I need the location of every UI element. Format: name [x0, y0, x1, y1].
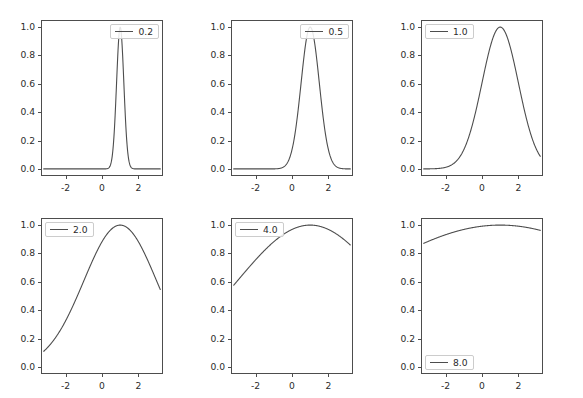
legend-0.2[interactable]: 0.2	[110, 24, 159, 39]
ytick-mark	[418, 225, 421, 226]
ytick-label: 0.4	[389, 108, 415, 117]
data-curve	[234, 27, 351, 169]
xtick-mark	[66, 176, 67, 179]
ytick-label: 0.4	[9, 306, 35, 315]
legend-line-swatch	[430, 31, 448, 32]
subplot-8.0: 0.00.20.40.60.81.0-2028.0	[421, 218, 543, 374]
xtick-mark	[482, 176, 483, 179]
ytick-mark	[38, 225, 41, 226]
xtick-label: 0	[479, 381, 485, 390]
ytick-mark	[418, 84, 421, 85]
curve-group	[421, 218, 543, 374]
xtick-label: 2	[135, 381, 141, 390]
ytick-mark	[228, 225, 231, 226]
figure-canvas: 0.00.20.40.60.81.0-2020.20.00.20.40.60.8…	[0, 0, 583, 398]
xtick-mark	[518, 374, 519, 377]
data-curve	[424, 27, 541, 169]
legend-line-swatch	[305, 31, 323, 32]
xtick-label: 2	[515, 381, 521, 390]
ytick-mark	[418, 367, 421, 368]
ytick-mark	[38, 112, 41, 113]
legend-label: 0.5	[328, 27, 343, 36]
xtick-mark	[328, 176, 329, 179]
ytick-label: 0.0	[199, 362, 225, 371]
ytick-label: 0.2	[9, 136, 35, 145]
ytick-mark	[38, 84, 41, 85]
ytick-mark	[38, 27, 41, 28]
ytick-mark	[228, 55, 231, 56]
ytick-label: 0.6	[9, 79, 35, 88]
data-curve	[44, 27, 161, 169]
xtick-label: 2	[515, 183, 521, 192]
xtick-mark	[292, 176, 293, 179]
legend-1.0[interactable]: 1.0	[425, 24, 474, 39]
xtick-label: -2	[251, 381, 260, 390]
xtick-mark	[292, 374, 293, 377]
xtick-mark	[138, 176, 139, 179]
legend-0.5[interactable]: 0.5	[300, 24, 349, 39]
ytick-mark	[38, 310, 41, 311]
ytick-mark	[228, 282, 231, 283]
ytick-label: 0.2	[199, 334, 225, 343]
xtick-label: -2	[61, 381, 70, 390]
ytick-label: 0.0	[9, 164, 35, 173]
ytick-label: 1.0	[389, 220, 415, 229]
ytick-label: 0.6	[199, 79, 225, 88]
legend-2.0[interactable]: 2.0	[45, 222, 94, 237]
ytick-label: 0.6	[389, 79, 415, 88]
ytick-mark	[228, 253, 231, 254]
legend-4.0[interactable]: 4.0	[235, 222, 284, 237]
ytick-label: 0.4	[9, 108, 35, 117]
xtick-mark	[138, 374, 139, 377]
xtick-mark	[102, 176, 103, 179]
xtick-label: 2	[325, 381, 331, 390]
xtick-label: -2	[61, 183, 70, 192]
ytick-mark	[228, 339, 231, 340]
legend-label: 1.0	[453, 27, 468, 36]
ytick-label: 0.2	[389, 136, 415, 145]
ytick-label: 0.0	[389, 362, 415, 371]
legend-line-swatch	[115, 31, 133, 32]
xtick-mark	[102, 374, 103, 377]
ytick-label: 0.2	[389, 334, 415, 343]
ytick-label: 1.0	[199, 22, 225, 31]
legend-line-swatch	[50, 229, 68, 230]
ytick-label: 1.0	[9, 22, 35, 31]
ytick-label: 0.4	[389, 306, 415, 315]
ytick-label: 0.4	[199, 108, 225, 117]
curve-group	[41, 20, 163, 176]
legend-label: 0.2	[138, 27, 153, 36]
legend-label: 2.0	[73, 225, 88, 234]
ytick-label: 1.0	[199, 220, 225, 229]
xtick-label: 0	[99, 183, 105, 192]
xtick-mark	[518, 176, 519, 179]
ytick-label: 0.2	[9, 334, 35, 343]
data-curve	[44, 225, 161, 351]
ytick-mark	[38, 253, 41, 254]
ytick-mark	[228, 310, 231, 311]
xtick-label: 2	[135, 183, 141, 192]
ytick-label: 0.8	[9, 51, 35, 60]
legend-line-swatch	[430, 362, 448, 363]
ytick-label: 0.8	[199, 51, 225, 60]
ytick-mark	[418, 27, 421, 28]
legend-8.0[interactable]: 8.0	[425, 355, 474, 370]
ytick-mark	[38, 282, 41, 283]
curve-group	[421, 20, 543, 176]
ytick-label: 0.8	[389, 249, 415, 258]
xtick-mark	[66, 374, 67, 377]
xtick-mark	[446, 176, 447, 179]
ytick-label: 1.0	[9, 220, 35, 229]
ytick-mark	[418, 169, 421, 170]
ytick-mark	[418, 310, 421, 311]
ytick-mark	[418, 112, 421, 113]
ytick-label: 1.0	[389, 22, 415, 31]
ytick-mark	[418, 141, 421, 142]
data-curve	[424, 225, 541, 243]
ytick-mark	[418, 55, 421, 56]
xtick-label: -2	[251, 183, 260, 192]
xtick-label: 0	[99, 381, 105, 390]
ytick-mark	[38, 169, 41, 170]
xtick-mark	[482, 374, 483, 377]
ytick-mark	[38, 339, 41, 340]
